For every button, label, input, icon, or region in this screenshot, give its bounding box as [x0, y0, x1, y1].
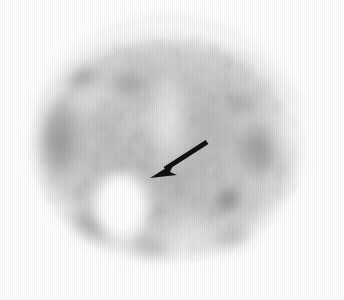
bright-inferior-midline [160, 214, 212, 258]
bright-midline-band [151, 62, 185, 178]
dark-patch-right-frontal [216, 88, 264, 120]
bright-streak-upper-left [76, 87, 116, 109]
bright-streak-midline [116, 113, 148, 131]
bright-photopenic-focus [87, 166, 155, 246]
brain-scan-image [0, 0, 344, 300]
axial-brain-slice [0, 0, 344, 300]
figure-root: Grayscale axial nuclear medicine brain s… [0, 0, 344, 300]
dark-focus-core [217, 190, 239, 210]
